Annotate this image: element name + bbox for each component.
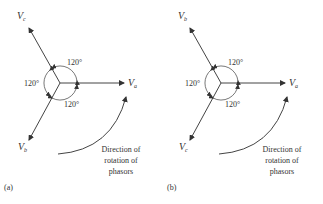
angle-label-bottom: 120° <box>225 100 240 109</box>
label-va: Va <box>128 77 137 89</box>
rotation-label-line1: Direction of <box>102 145 141 154</box>
label-vb: Vb <box>18 141 27 153</box>
angle-label-top: 120° <box>67 58 82 67</box>
phasor-vc-arrow <box>190 83 221 140</box>
angle-arc-left <box>205 70 211 96</box>
panel-b: 120° 120° 120° Va Vb Vc Direction of rot… <box>167 10 302 192</box>
rotation-label-line3: phasors <box>270 167 294 176</box>
phasor-vb-arrow <box>29 83 60 140</box>
angle-arc-top <box>52 66 77 81</box>
panel-a: 120° 120° 120° Va Vc Vb Direction of rot… <box>4 10 141 192</box>
label-vc: Vc <box>179 141 188 153</box>
phasor-vc-arrow <box>29 28 60 83</box>
rotation-label-line2: rotation of <box>265 156 299 165</box>
phasor-vb-arrow <box>190 28 221 83</box>
angle-arc-bottom <box>213 85 238 100</box>
angle-label-bottom: 120° <box>64 100 79 109</box>
rotation-label-line1: Direction of <box>263 145 302 154</box>
panel-caption-b: (b) <box>167 183 177 192</box>
phasor-diagram-figure: 120° 120° 120° Va Vc Vb Direction of rot… <box>0 0 323 204</box>
angle-arc-top <box>213 66 238 81</box>
label-va: Va <box>289 77 298 89</box>
angle-arc-left <box>44 70 50 96</box>
panel-caption-a: (a) <box>4 183 13 192</box>
label-vc: Vc <box>17 10 26 22</box>
rotation-label-line3: phasors <box>109 167 133 176</box>
label-vb: Vb <box>178 10 187 22</box>
rotation-label-line2: rotation of <box>104 156 138 165</box>
angle-label-top: 120° <box>228 58 243 67</box>
angle-arc-bottom <box>52 85 77 100</box>
angle-label-left: 120° <box>24 79 39 88</box>
angle-label-left: 120° <box>185 79 200 88</box>
